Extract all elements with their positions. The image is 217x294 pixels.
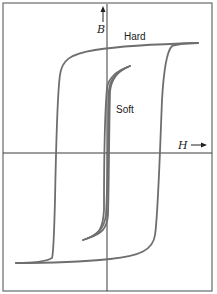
h-axis-label: H xyxy=(177,139,188,152)
hard-curve-label: Hard xyxy=(124,31,146,42)
b-axis-label: B xyxy=(96,23,105,36)
hysteresis-diagram: B H Hard Soft xyxy=(0,0,217,294)
soft-curve-label: Soft xyxy=(116,104,134,115)
